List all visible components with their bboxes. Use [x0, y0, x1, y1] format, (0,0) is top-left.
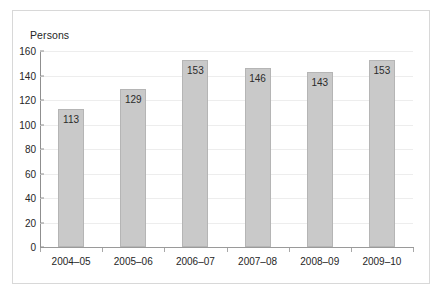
x-tick-mark — [102, 248, 103, 252]
bar-value-label: 146 — [246, 73, 270, 84]
x-tick-label: 2008–09 — [300, 256, 339, 267]
y-tick-label: 140 — [19, 70, 36, 81]
y-tick-label: 40 — [25, 193, 36, 204]
y-tick-label: 20 — [25, 217, 36, 228]
x-tick-label: 2006–07 — [176, 256, 215, 267]
bar: 143 — [307, 72, 333, 247]
x-tick-mark — [164, 248, 165, 252]
y-axis-title: Persons — [30, 29, 69, 41]
y-tick-label: 60 — [25, 168, 36, 179]
bar: 113 — [58, 109, 84, 247]
x-tick-label: 2009–10 — [362, 256, 401, 267]
x-tick-mark — [413, 248, 414, 252]
chart-figure: Persons 020406080100120140160 1131291531… — [12, 10, 430, 284]
bar: 129 — [120, 89, 146, 247]
y-tick-label: 120 — [19, 95, 36, 106]
y-tick-label: 100 — [19, 119, 36, 130]
x-tick-mark — [351, 248, 352, 252]
x-tick-label: 2004–05 — [52, 256, 91, 267]
y-tick-label: 80 — [25, 144, 36, 155]
bar-value-label: 143 — [308, 77, 332, 88]
x-tick-mark — [40, 248, 41, 252]
x-tick-mark — [227, 248, 228, 252]
bar-value-label: 153 — [183, 65, 207, 76]
x-tick-label: 2007–08 — [238, 256, 277, 267]
bar-value-label: 153 — [370, 65, 394, 76]
bar-value-label: 129 — [121, 94, 145, 105]
bar: 153 — [369, 60, 395, 247]
bar: 153 — [182, 60, 208, 247]
y-tick-label: 0 — [30, 242, 36, 253]
y-tick-label: 160 — [19, 46, 36, 57]
x-tick-mark — [289, 248, 290, 252]
bar-value-label: 113 — [59, 114, 83, 125]
x-tick-label: 2005–06 — [114, 256, 153, 267]
plot-area: 113129153146143153 — [40, 51, 413, 247]
bar: 146 — [245, 68, 271, 247]
